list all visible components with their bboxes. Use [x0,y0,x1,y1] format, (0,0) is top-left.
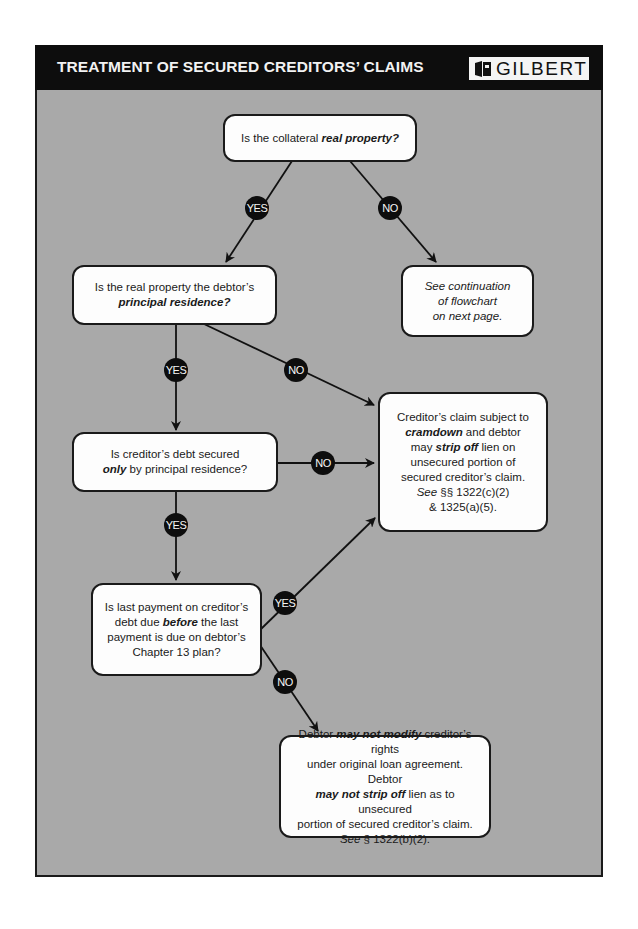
node-text: the last [198,616,238,628]
citation: §§ 1322(c)(2) [437,486,509,498]
node-text: secured creditor’s claim. [397,470,529,485]
node-emphasis: strip off [436,441,479,453]
node-text: Chapter 13 plan? [105,645,248,660]
node-emphasis: real property? [322,132,399,144]
citation-signal: See [340,833,360,845]
node-text: by principal residence? [126,463,247,475]
node-emphasis: may not strip off [315,788,405,800]
node-text: Is last payment on creditor’s [105,600,248,615]
node-text: Is creditor’s debt secured [103,447,247,462]
node-text: portion of secured creditor’s claim. [289,817,481,832]
node-text: See continuation [425,279,511,294]
node-emphasis: only [103,463,127,475]
node-collateral-real-property: Is the collateral real property? [223,114,417,162]
node-text: and debtor [463,426,521,438]
node-text: unsecured portion of [397,455,529,470]
node-emphasis: may not modify [336,728,421,740]
citation-signal: See [417,486,437,498]
badge-q3-no: NO [311,451,335,475]
badge-q1-no: NO [378,196,402,220]
node-secured-only-by-residence: Is creditor’s debt secured only by princ… [72,432,278,492]
node-emphasis: cramdown [405,426,463,438]
node-text: under original loan agreement. Debtor [289,757,481,787]
node-see-continuation: See continuation of flowchart on next pa… [401,265,534,337]
citation: & 1325(a)(5). [397,500,529,515]
badge-q4-no: NO [273,670,297,694]
node-text: lien on [478,441,515,453]
node-text: payment is due on debtor’s [105,630,248,645]
badge-q1-yes: YES [245,196,269,220]
node-text: Is the real property the debtor’s [95,280,254,295]
node-cramdown-result: Creditor’s claim subject to cramdown and… [378,392,548,532]
citation: § 1322(b)(2). [360,833,430,845]
node-principal-residence: Is the real property the debtor’s princi… [72,265,277,325]
node-emphasis: before [163,616,198,628]
badge-q4-yes: YES [273,591,297,615]
node-last-payment-before: Is last payment on creditor’s debt due b… [91,583,262,676]
node-text: of flowchart [425,294,511,309]
node-emphasis: principal residence? [95,295,254,310]
badge-q2-no: NO [284,358,308,382]
node-text: debt due [115,616,163,628]
node-text: Debtor [299,728,337,740]
node-text: Is the collateral [241,132,322,144]
node-text: may [411,441,436,453]
badge-q3-yes: YES [164,513,188,537]
node-may-not-modify: Debtor may not modify creditor’s rights … [279,735,491,838]
badge-q2-yes: YES [164,358,188,382]
node-text: Creditor’s claim subject to [397,410,529,425]
node-text: on next page. [425,309,511,324]
